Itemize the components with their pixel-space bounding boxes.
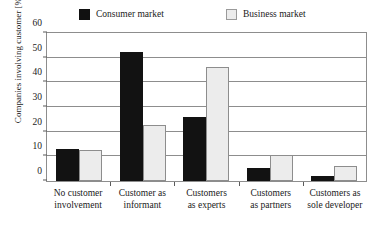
x-axis-label-line: No customer bbox=[47, 188, 109, 200]
x-axis-label-4: Customers assole developer bbox=[303, 188, 367, 211]
x-axis-label-1: Customer asinformant bbox=[110, 188, 174, 211]
bars-container bbox=[47, 33, 366, 181]
bar-business-1[interactable] bbox=[143, 125, 166, 181]
bar-business-3[interactable] bbox=[270, 155, 293, 181]
x-tick-mark-1 bbox=[110, 182, 111, 186]
bar-business-4[interactable] bbox=[334, 166, 357, 181]
x-axis-label-line: Customer as bbox=[111, 188, 173, 200]
x-axis-label-line: sole developer bbox=[304, 200, 366, 212]
x-axis-label-line: as partners bbox=[240, 200, 302, 212]
bar-business-0[interactable] bbox=[79, 150, 102, 181]
x-axis-label-line: Customers bbox=[240, 188, 302, 200]
y-tick-label-50: 50 bbox=[33, 43, 43, 53]
y-tick-label-10: 10 bbox=[33, 141, 43, 151]
x-axis-label-line: informant bbox=[111, 200, 173, 212]
bar-business-2[interactable] bbox=[206, 67, 229, 182]
chart-legend: Consumer market Business market bbox=[0, 8, 384, 28]
x-tick-mark-3 bbox=[239, 182, 240, 186]
x-axis-label-0: No customerinvolvement bbox=[46, 188, 110, 211]
bar-group bbox=[175, 33, 239, 181]
filled-black-square-icon bbox=[79, 9, 90, 20]
chart-plot-area: 0102030405060 bbox=[46, 32, 367, 182]
outlined-light-square-icon bbox=[226, 9, 237, 20]
bar-group bbox=[238, 33, 302, 181]
x-axis-labels: No customerinvolvementCustomer asinforma… bbox=[46, 188, 367, 211]
legend-label-business-market: Business market bbox=[243, 9, 306, 20]
x-tick-mark-2 bbox=[174, 182, 175, 186]
x-axis-ticks bbox=[46, 182, 367, 187]
x-axis-label-3: Customersas partners bbox=[239, 188, 303, 211]
bar-consumer-2[interactable] bbox=[183, 117, 206, 181]
x-axis-label-line: involvement bbox=[47, 200, 109, 212]
bar-group bbox=[302, 33, 366, 181]
y-axis-title: Companies involving customer [%] bbox=[13, 0, 23, 134]
y-tick-label-30: 30 bbox=[33, 92, 43, 102]
bar-group bbox=[47, 33, 111, 181]
bar-group bbox=[111, 33, 175, 181]
legend-label-consumer-market: Consumer market bbox=[96, 9, 164, 20]
x-axis-label-line: as experts bbox=[175, 200, 237, 212]
bar-consumer-4[interactable] bbox=[311, 176, 334, 181]
legend-entry-consumer-market: Consumer market bbox=[79, 9, 164, 20]
x-tick-mark-4 bbox=[303, 182, 304, 186]
y-tick-label-20: 20 bbox=[33, 117, 43, 127]
bar-consumer-1[interactable] bbox=[120, 52, 143, 181]
bar-consumer-0[interactable] bbox=[56, 149, 79, 181]
bar-consumer-3[interactable] bbox=[247, 168, 270, 182]
y-tick-label-0: 0 bbox=[37, 166, 42, 176]
legend-entry-business-market: Business market bbox=[226, 9, 306, 20]
y-tick-label-40: 40 bbox=[33, 67, 43, 77]
y-tick-label-60: 60 bbox=[33, 18, 43, 28]
x-axis-label-line: Customers as bbox=[304, 188, 366, 200]
x-axis-label-line: Customers bbox=[175, 188, 237, 200]
x-axis-label-2: Customersas experts bbox=[174, 188, 238, 211]
